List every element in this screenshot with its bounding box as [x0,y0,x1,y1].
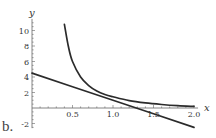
x-tick-label: 2.0 [188,110,201,119]
y-axis-label: y [28,7,35,18]
x-tick-label: 0.5 [66,110,79,119]
x-tick-label: 1.0 [107,110,120,119]
y-tick-label: 10 [19,27,29,36]
y-tick-label: 6 [24,58,29,67]
axis-ticks: -22468100.51.01.52.0 [19,23,201,129]
panel-label: b. [2,118,13,135]
series-line [32,73,194,127]
series-curve [64,24,194,106]
y-tick-label: 4 [24,73,29,82]
y-tick-label: 8 [24,42,29,51]
x-axis-label: x [204,102,210,113]
chart: -22468100.51.01.52.0 x y [0,0,216,138]
y-tick-label: 2 [24,89,29,98]
y-tick-label: -2 [21,120,29,129]
